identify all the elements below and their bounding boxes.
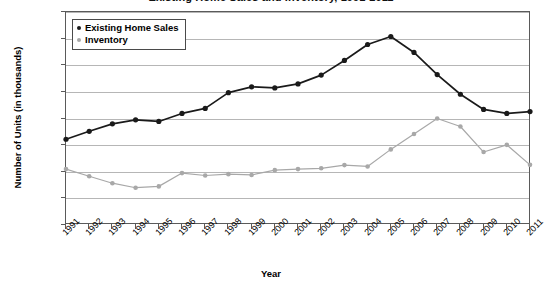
data-point (458, 124, 463, 129)
legend-marker-existing-home-sales (77, 26, 81, 30)
data-point (435, 116, 440, 121)
data-point (87, 174, 92, 179)
y-tick-mark (61, 197, 65, 198)
data-point (249, 173, 254, 178)
data-point (412, 132, 417, 137)
data-point (527, 109, 532, 114)
series-line (66, 37, 530, 140)
data-point (110, 121, 115, 126)
y-tick-mark (61, 91, 65, 92)
data-point (203, 173, 208, 178)
y-tick-mark (61, 144, 65, 145)
y-tick-mark (61, 118, 65, 119)
series-line (66, 119, 530, 188)
chart-legend: Existing Home Sales Inventory (72, 19, 186, 50)
legend-item: Existing Home Sales (77, 22, 178, 34)
data-point (411, 50, 416, 55)
data-point (226, 90, 231, 95)
data-point (249, 84, 254, 89)
y-tick-mark (61, 64, 65, 65)
data-point (272, 85, 277, 90)
data-point (180, 171, 185, 176)
data-point (156, 119, 161, 124)
data-point (226, 172, 231, 177)
data-point (133, 185, 138, 190)
data-point (110, 181, 115, 186)
data-point (528, 163, 533, 168)
data-point (481, 107, 486, 112)
data-point (435, 72, 440, 77)
data-point (319, 73, 324, 78)
data-point (388, 34, 393, 39)
data-point (296, 167, 301, 172)
data-point (133, 117, 138, 122)
legend-label: Existing Home Sales (85, 22, 178, 34)
data-point (365, 164, 370, 169)
data-point (458, 92, 463, 97)
data-point (179, 111, 184, 116)
data-point (295, 81, 300, 86)
data-point (157, 184, 162, 189)
data-point (504, 111, 509, 116)
data-point (342, 163, 347, 168)
legend-marker-inventory (77, 38, 81, 42)
data-point (481, 150, 486, 155)
x-axis-label: Year (0, 268, 542, 279)
data-point (365, 42, 370, 47)
legend-label: Inventory (85, 34, 128, 46)
data-point (342, 58, 347, 63)
data-point (203, 106, 208, 111)
y-axis-label: Number of Units (in thousands) (12, 43, 23, 193)
data-point (319, 166, 324, 171)
y-tick-mark (61, 11, 65, 12)
legend-item: Inventory (77, 34, 178, 46)
data-point (505, 143, 510, 148)
chart-title: Existing Home Sales and Inventory, 1991-… (0, 0, 542, 3)
data-point (389, 147, 394, 152)
y-tick-mark (61, 38, 65, 39)
y-tick-mark (61, 171, 65, 172)
data-point (63, 137, 68, 142)
data-point (87, 129, 92, 134)
data-point (273, 168, 278, 173)
